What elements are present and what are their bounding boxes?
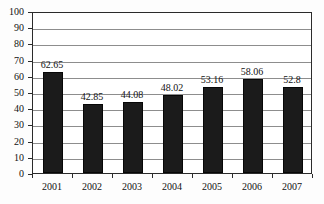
y-axis-tick-label: 90 <box>0 23 24 33</box>
bar <box>83 104 103 173</box>
x-axis-category-label: 2004 <box>152 182 192 192</box>
x-axis-category-label: 2001 <box>32 182 72 192</box>
bar-value-label: 52.8 <box>272 75 312 85</box>
bar-value-label: 42.85 <box>72 92 112 102</box>
x-axis-tick-mark <box>312 174 313 178</box>
x-axis-category-label: 2006 <box>232 182 272 192</box>
gridline <box>33 62 311 63</box>
bar-value-label: 48.02 <box>152 83 192 93</box>
x-axis-tick-mark <box>72 174 73 178</box>
x-axis-category-label: 2003 <box>112 182 152 192</box>
bar <box>163 95 183 173</box>
x-axis-category-label: 2007 <box>272 182 312 192</box>
x-axis-tick-mark <box>272 174 273 178</box>
bar <box>43 72 63 173</box>
y-axis-tick-label: 30 <box>0 120 24 130</box>
x-axis-category-label: 2005 <box>192 182 232 192</box>
x-axis-tick-mark <box>112 174 113 178</box>
bar-value-label: 53.16 <box>192 75 232 85</box>
y-axis-tick-label: 60 <box>0 72 24 82</box>
y-axis-tick-label: 20 <box>0 137 24 147</box>
bar <box>243 79 263 173</box>
bar <box>203 87 223 173</box>
bar-chart: 0102030405060708090100 20012002200320042… <box>0 0 324 204</box>
y-axis-tick-label: 50 <box>0 88 24 98</box>
x-axis-tick-mark <box>232 174 233 178</box>
x-axis-tick-mark <box>32 174 33 178</box>
y-axis-tick-label: 40 <box>0 104 24 114</box>
gridline <box>33 29 311 30</box>
bar-value-label: 62.65 <box>32 60 72 70</box>
gridline <box>33 78 311 79</box>
x-axis-tick-mark <box>152 174 153 178</box>
y-axis-tick-label: 70 <box>0 56 24 66</box>
bar-value-label: 58.06 <box>232 67 272 77</box>
bar <box>123 102 143 173</box>
x-axis-category-label: 2002 <box>72 182 112 192</box>
bar-value-label: 44.08 <box>112 90 152 100</box>
bar <box>283 87 303 173</box>
y-axis-tick-label: 0 <box>0 169 24 179</box>
y-axis-tick-label: 10 <box>0 153 24 163</box>
x-axis-tick-mark <box>192 174 193 178</box>
y-axis-tick-label: 80 <box>0 39 24 49</box>
y-axis-tick-label: 100 <box>0 7 24 17</box>
gridline <box>33 45 311 46</box>
